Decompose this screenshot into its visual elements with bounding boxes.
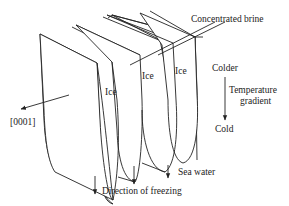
concentrated-brine-label: Concentrated brine (191, 14, 264, 24)
ice-label-1: Ice (105, 87, 117, 97)
ice-plate-1-face (40, 34, 113, 200)
cold-label: Cold (215, 124, 234, 134)
c-axis-label: [0001] (10, 117, 35, 127)
colder-label: Colder (212, 63, 239, 73)
sea-water-label: Sea water (178, 167, 216, 177)
ice-label-3: Ice (175, 66, 187, 76)
temperature-gradient-label-2: gradient (240, 96, 271, 106)
temperature-gradient-label-1: Temperature (229, 85, 277, 95)
ice-label-2: Ice (142, 71, 154, 81)
sea-ice-diagram: Ice Ice Ice Concentrated brine [0001] Co… (0, 0, 289, 206)
direction-of-freezing-label: Direction of freezing (102, 186, 182, 196)
